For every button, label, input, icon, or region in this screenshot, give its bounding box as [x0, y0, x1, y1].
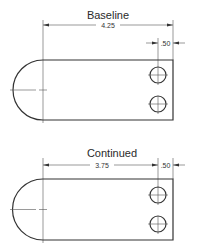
hole-bottom — [148, 216, 168, 234]
arrowhead-icon — [167, 24, 173, 27]
arrowhead-icon — [152, 164, 158, 167]
dimensioning-diagram: Baseline 4.25 .50 — [0, 0, 199, 251]
baseline-drawing: Baseline 4.25 .50 — [10, 9, 185, 123]
arrowhead-icon — [173, 42, 179, 45]
dimension-label-3-75: 3.75 — [95, 162, 109, 169]
dimension-label-50: .50 — [161, 162, 171, 169]
arrowhead-icon — [43, 24, 49, 27]
dimension-label-50: .50 — [161, 40, 171, 47]
arrowhead-icon — [173, 164, 179, 167]
hole-top — [148, 67, 168, 85]
hole-bottom — [148, 96, 168, 114]
part-outline — [12, 179, 173, 240]
hole-top — [148, 187, 168, 205]
part-outline — [13, 60, 173, 120]
continued-drawing: Continued 3.75 .50 — [10, 147, 185, 243]
baseline-title: Baseline — [87, 9, 129, 21]
arrowhead-icon — [152, 42, 158, 45]
arrowhead-icon — [43, 164, 49, 167]
continued-title: Continued — [87, 147, 137, 159]
dimension-label-4-25: 4.25 — [101, 22, 115, 29]
